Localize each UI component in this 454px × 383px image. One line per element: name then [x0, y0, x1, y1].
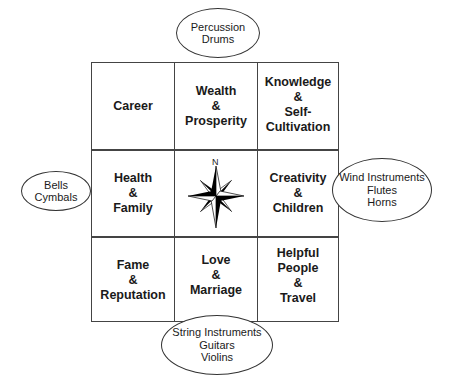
ellipse-string-instruments: String Instruments Guitars Violins [161, 315, 273, 375]
cell-helpful-people-travel: Helpful People & Travel [258, 237, 338, 323]
cell-health-family: Health & Family [92, 150, 174, 237]
compass-rose-icon [180, 156, 252, 236]
cell-career: Career [92, 63, 174, 150]
cell-love-marriage: Love & Marriage [175, 237, 257, 323]
ellipse-wind-instruments: Wind Instruments Flutes Horns [332, 158, 432, 222]
cell-wealth-prosperity: Wealth & Prosperity [175, 63, 257, 150]
cell-fame-reputation: Fame & Reputation [92, 237, 174, 323]
ellipse-percussion-drums: Percussion Drums [176, 8, 260, 58]
cell-creativity-children: Creativity & Children [258, 150, 338, 237]
cell-knowledge-self-cultivation: Knowledge & Self- Cultivation [258, 63, 338, 150]
ellipse-bells-cymbals: Bells Cymbals [21, 171, 91, 211]
